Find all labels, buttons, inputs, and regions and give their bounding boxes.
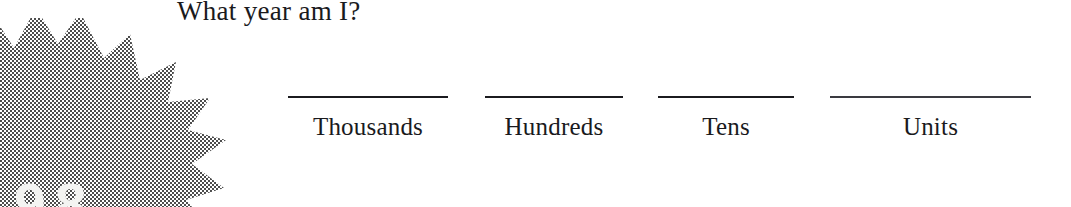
column-label-hundreds: Hundreds bbox=[485, 112, 623, 142]
column-label-units: Units bbox=[830, 112, 1031, 142]
answer-blank-thousands[interactable] bbox=[288, 96, 448, 98]
answer-blank-hundreds[interactable] bbox=[485, 96, 623, 98]
answer-blank-tens[interactable] bbox=[658, 96, 794, 98]
worksheet-page: 98 What year am I? Thousands Hundreds Te… bbox=[0, 0, 1071, 207]
starburst-digits: 98 bbox=[14, 176, 139, 207]
column-label-thousands: Thousands bbox=[288, 112, 448, 142]
starburst-digits-text: 98 bbox=[14, 176, 139, 207]
answer-column-units: Units bbox=[830, 96, 1031, 142]
answer-column-thousands: Thousands bbox=[288, 96, 448, 142]
starburst-shape-icon: 98 bbox=[0, 18, 274, 207]
page-title: What year am I? bbox=[177, 0, 361, 28]
answer-column-tens: Tens bbox=[658, 96, 794, 142]
answer-column-hundreds: Hundreds bbox=[485, 96, 623, 142]
column-label-tens: Tens bbox=[658, 112, 794, 142]
answer-blank-units[interactable] bbox=[830, 96, 1031, 98]
